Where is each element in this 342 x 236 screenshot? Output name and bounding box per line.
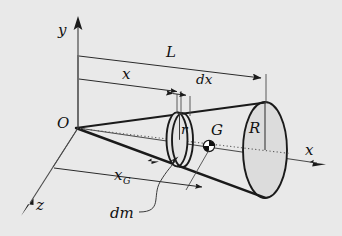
diagram-canvas: y x z O L x dx r R G x G dm bbox=[0, 0, 342, 236]
disk-pointer-arrow-icon bbox=[148, 159, 160, 165]
centroid-distance-label-subscript: G bbox=[123, 175, 131, 186]
cone-centroid-diagram: y x z O L x dx r R G x G dm bbox=[0, 0, 342, 236]
centroid-label-G: G bbox=[211, 121, 223, 139]
dx-dimension-line bbox=[173, 94, 186, 96]
centroid-marker-group bbox=[203, 140, 214, 151]
length-label-L: L bbox=[165, 43, 176, 61]
dm-leader-curve bbox=[139, 160, 176, 212]
centroid-distance-label-xG: x G bbox=[114, 166, 131, 186]
xG-extension-left bbox=[53, 128, 78, 167]
disk-bottom-connector bbox=[177, 166, 183, 167]
leader-dm bbox=[139, 157, 179, 213]
y-axis-label: y bbox=[57, 21, 67, 39]
x-axis-arrow-icon bbox=[310, 160, 327, 167]
x-axis-label: x bbox=[305, 141, 314, 159]
disk-element-dm bbox=[167, 112, 194, 167]
z-axis-label: z bbox=[35, 196, 44, 214]
distance-label-x: x bbox=[122, 65, 131, 83]
center-of-mass-icon bbox=[203, 140, 214, 151]
mass-element-label-dm: dm bbox=[110, 204, 134, 222]
origin-label: O bbox=[57, 114, 69, 132]
dimension-x bbox=[79, 79, 181, 115]
z-axis-arrow-icon bbox=[21, 199, 34, 217]
centroid-distance-label-base: x bbox=[114, 166, 123, 184]
base-radius-label-R: R bbox=[248, 119, 260, 137]
thickness-label-dx: dx bbox=[196, 71, 213, 87]
